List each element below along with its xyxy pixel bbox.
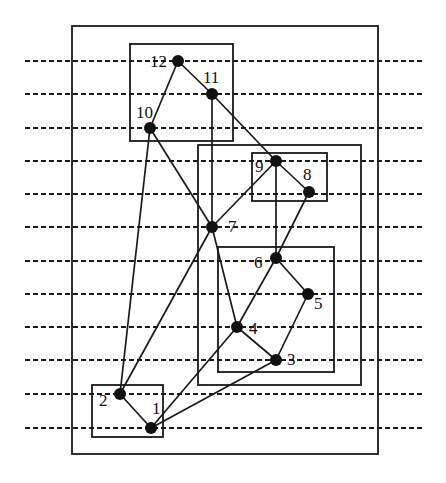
node-label-10: 10 <box>136 103 153 122</box>
node-label-1: 1 <box>152 399 161 418</box>
node-5 <box>302 288 314 300</box>
node-7 <box>206 221 218 233</box>
node-label-4: 4 <box>249 319 258 338</box>
node-3 <box>270 354 282 366</box>
node-label-5: 5 <box>314 294 323 313</box>
nodes: 121110987654321 <box>99 52 323 434</box>
edge-7-4 <box>212 227 237 327</box>
node-2 <box>114 388 126 400</box>
node-label-9: 9 <box>255 157 264 176</box>
cluster-box-9-8-6-5-4-3 <box>198 145 361 385</box>
node-4 <box>231 321 243 333</box>
node-label-7: 7 <box>228 217 237 236</box>
node-11 <box>206 88 218 100</box>
edge-10-7 <box>150 128 212 227</box>
node-label-8: 8 <box>303 165 312 184</box>
node-label-6: 6 <box>254 253 263 272</box>
node-9 <box>270 155 282 167</box>
node-10 <box>144 122 156 134</box>
node-6 <box>270 252 282 264</box>
node-label-3: 3 <box>287 350 296 369</box>
node-12 <box>172 55 184 67</box>
edge-6-5 <box>276 258 308 294</box>
node-8 <box>303 186 315 198</box>
edge-4-1 <box>151 327 237 428</box>
node-1 <box>145 422 157 434</box>
layer-lines <box>25 61 425 428</box>
edge-2-1 <box>120 394 151 428</box>
node-label-2: 2 <box>99 391 108 410</box>
graph-diagram: 121110987654321 <box>0 0 446 483</box>
node-label-12: 12 <box>150 52 167 71</box>
node-label-11: 11 <box>203 68 219 87</box>
